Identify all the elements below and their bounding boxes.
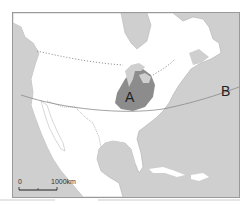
bottom-divider-right xyxy=(98,199,240,201)
cuba xyxy=(149,167,185,177)
north-america-map xyxy=(13,13,239,197)
hispaniola xyxy=(191,173,209,181)
scale-end-label: 1000km xyxy=(51,178,76,185)
region-a-label: A xyxy=(125,89,134,105)
map-frame: A B 0 1000km xyxy=(12,12,240,198)
bottom-divider-left xyxy=(0,199,55,201)
line-b-label: B xyxy=(221,83,230,99)
scale-start-label: 0 xyxy=(18,178,22,185)
